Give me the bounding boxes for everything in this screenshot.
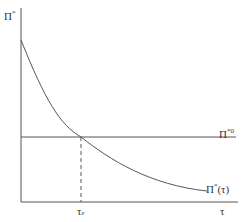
- curve-label: Π*(τ): [206, 183, 229, 195]
- tau-e-label: τe: [77, 206, 85, 217]
- y-axis-label: Π*: [4, 10, 15, 22]
- curve-pi-tau: [21, 40, 207, 191]
- horizontal-line-label: Π*0: [219, 128, 234, 140]
- x-axis-label: τ: [220, 206, 224, 217]
